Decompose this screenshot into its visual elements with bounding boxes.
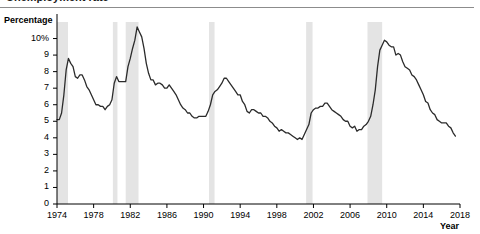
recession-bands-group	[57, 22, 382, 204]
y-tick-label: 0	[5, 198, 49, 208]
y-tick-label: 2	[5, 165, 49, 175]
recession-band	[113, 22, 118, 204]
x-tick-label: 2014	[403, 210, 443, 220]
x-tick-label: 1994	[220, 210, 260, 220]
x-tick-label: 2002	[293, 210, 333, 220]
x-tick-label: 1990	[184, 210, 224, 220]
x-tick-label: 1986	[147, 210, 187, 220]
recession-band	[57, 22, 68, 204]
recession-band	[209, 22, 214, 204]
chart-plot-area	[0, 0, 480, 234]
y-tick-label: 5	[5, 115, 49, 125]
y-tick-label: 8	[5, 66, 49, 76]
unemployment-rate-figure: Unemployment rate Percentage Year 012345…	[0, 0, 480, 234]
x-tick-label: 2006	[330, 210, 370, 220]
x-tick-label: 1998	[257, 210, 297, 220]
y-tick-label: 3	[5, 148, 49, 158]
x-tick-label: 1982	[110, 210, 150, 220]
y-tick-label: 10%	[5, 33, 49, 43]
y-tick-label: 6	[5, 99, 49, 109]
y-tick-label: 1	[5, 181, 49, 191]
x-tick-label: 2010	[367, 210, 407, 220]
x-tick-label: 1974	[37, 210, 77, 220]
y-tick-label: 7	[5, 82, 49, 92]
x-tick-label: 2018	[440, 210, 480, 220]
x-tick-label: 1978	[74, 210, 114, 220]
y-tick-label: 4	[5, 132, 49, 142]
y-tick-label: 9	[5, 49, 49, 59]
